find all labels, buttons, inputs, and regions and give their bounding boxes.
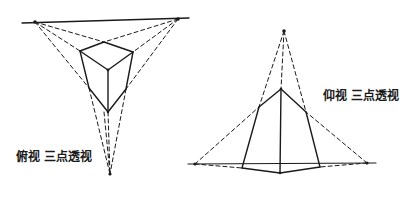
box-edges xyxy=(80,42,133,112)
box-edges xyxy=(242,89,320,173)
horizon-line xyxy=(188,163,376,164)
worms-eye-caption: 仰视 三点透视 xyxy=(323,89,399,103)
birds-eye-caption: 俯视 三点透视 xyxy=(16,150,92,164)
horizon-line xyxy=(22,18,189,23)
